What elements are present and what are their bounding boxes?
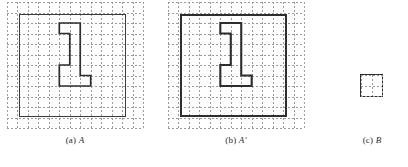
grid-vertical-line xyxy=(382,75,383,96)
panel-a-inner-polygon xyxy=(7,2,147,132)
panel-b-inner-polygon xyxy=(168,2,308,132)
panel-b-caption-index: (b) xyxy=(225,135,236,145)
panel-a-caption-index: (a) xyxy=(66,135,77,145)
panel-a-caption: (a) A xyxy=(7,135,143,145)
panel-a: (a) A xyxy=(7,2,147,162)
panel-c-caption-label: B xyxy=(376,135,382,145)
figure-container: (a) A (b) A′ (c) B xyxy=(0,0,408,167)
panel-c-grid xyxy=(361,75,382,96)
panel-b: (b) A′ xyxy=(168,2,308,162)
grid-horizontal-line xyxy=(361,86,382,87)
panel-b-caption: (b) A′ xyxy=(168,135,304,145)
panel-c-caption: (c) B xyxy=(344,135,400,145)
panel-a-caption-label: A xyxy=(79,135,85,145)
panel-c-structuring-element xyxy=(360,74,383,97)
grid-horizontal-line xyxy=(361,96,382,97)
grid-horizontal-line xyxy=(361,75,382,76)
panel-c-caption-index: (c) xyxy=(363,135,374,145)
panel-c: (c) B xyxy=(352,2,404,162)
panel-b-caption-prime: ′ xyxy=(245,135,247,145)
